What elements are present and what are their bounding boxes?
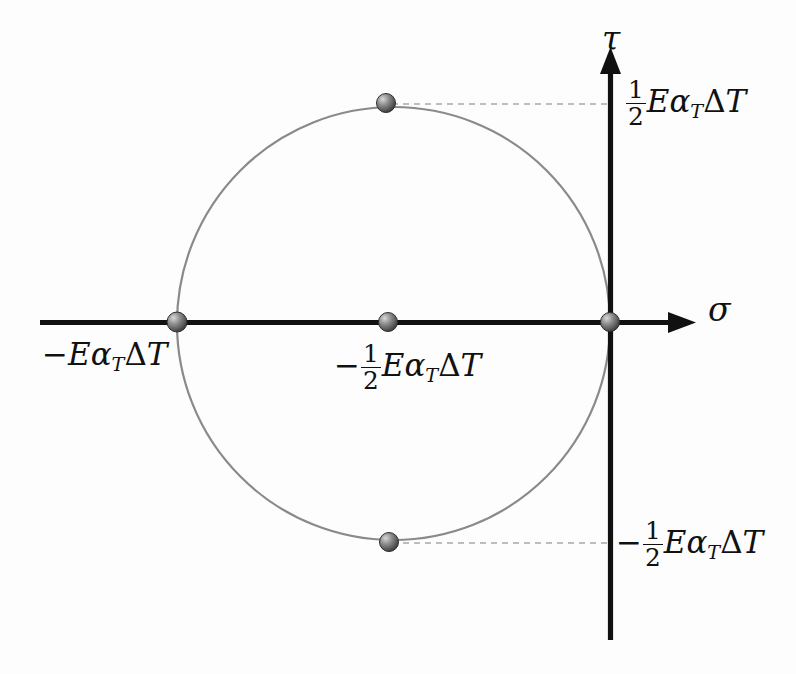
alpha-subscript-T: T [112,353,125,376]
delta-glyph: Δ [703,83,725,119]
temperature-glyph: T [726,83,747,119]
tau-glyph: τ [602,19,620,58]
marker-circle-center-point [379,313,398,332]
marker-left-axis-point [167,312,187,332]
tau-axis-label: τ [602,22,620,55]
youngs-modulus-glyph: E [647,83,670,119]
delta-glyph: Δ [438,347,460,383]
fraction-numerator: 1 [643,520,663,543]
fraction-denominator: 2 [643,546,663,570]
top-value-label: 12EαTΔT [625,79,746,129]
alpha-glyph: α [686,524,707,560]
sigma-axis-label: σ [708,293,731,326]
one-half-fraction: 12 [361,343,381,393]
temperature-glyph: T [147,336,168,372]
mohr-circle-figure: τ σ 12EαTΔT −12EαTΔT −EαTΔT −12EαTΔT [0,0,796,674]
temperature-glyph: T [461,347,482,383]
minus-sign: − [42,336,68,372]
fraction-numerator: 1 [626,79,646,102]
bottom-value-label: −12EαTΔT [616,520,763,570]
fraction-denominator: 2 [626,105,646,129]
alpha-glyph: α [404,347,425,383]
one-half-fraction: 12 [626,79,646,129]
left-intersection-label: −EαTΔT [42,339,167,374]
youngs-modulus-glyph: E [382,347,405,383]
alpha-glyph: α [91,336,112,372]
sigma-glyph: σ [708,290,731,329]
marker-top-point [377,94,396,113]
sigma-axis-arrowhead [668,312,696,333]
minus-sign: − [616,524,642,560]
alpha-glyph: α [669,83,690,119]
fraction-numerator: 1 [361,343,381,366]
marker-bottom-point [380,533,399,552]
minus-sign: − [334,347,360,383]
temperature-glyph: T [743,524,764,560]
alpha-subscript-T: T [690,100,703,123]
delta-glyph: Δ [124,336,146,372]
center-value-label: −12EαTΔT [334,343,481,393]
marker-origin-point [601,313,620,332]
youngs-modulus-glyph: E [664,524,687,560]
youngs-modulus-glyph: E [68,336,91,372]
alpha-subscript-T: T [425,364,438,387]
one-half-fraction: 12 [643,520,663,570]
alpha-subscript-T: T [707,541,720,564]
delta-glyph: Δ [720,524,742,560]
fraction-denominator: 2 [361,369,381,393]
